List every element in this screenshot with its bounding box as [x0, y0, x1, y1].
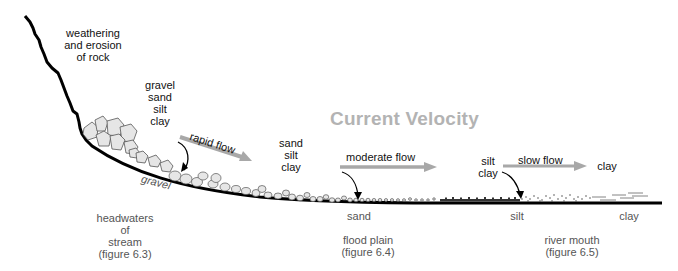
pebbles	[169, 171, 435, 202]
moderate-flow-arrow	[340, 162, 437, 172]
load-label-offshore: clay	[593, 160, 621, 172]
deposit-label-sand: sand	[344, 210, 374, 222]
deposit-label-clay: clay	[615, 210, 643, 222]
deposit-label-silt: silt	[505, 210, 529, 222]
diagram-title: Current Velocity	[330, 108, 479, 130]
fine-deposit	[521, 194, 591, 202]
flow-label-moderate: moderate flow	[346, 151, 415, 163]
region-label-flood-plain: flood plain (figure 6.4)	[336, 234, 400, 258]
flow-label-slow: slow flow	[518, 154, 563, 166]
clay-deposit	[592, 193, 648, 200]
region-label-river-mouth: river mouth (figure 6.5)	[539, 234, 605, 258]
source-label: weathering and erosion of rock	[58, 27, 128, 63]
load-label-headwaters: gravel sand silt clay	[142, 79, 178, 127]
region-label-headwaters: headwaters of stream (figure 6.3)	[92, 212, 158, 260]
load-label-river-mouth: silt clay	[474, 155, 502, 179]
sediment-transport-diagram: Current Velocity weathering and erosion …	[0, 0, 678, 271]
load-label-flood-plain: sand silt clay	[274, 137, 308, 173]
silt-deposit	[440, 197, 520, 202]
